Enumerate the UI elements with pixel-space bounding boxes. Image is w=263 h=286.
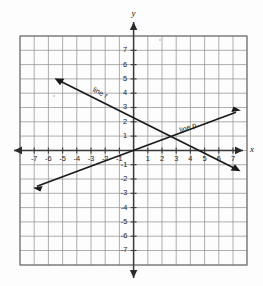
- y-tick-label: 7: [123, 45, 127, 54]
- y-tick-label: 2: [123, 117, 127, 126]
- y-tick-label: 1: [123, 131, 127, 140]
- x-tick-label: 5: [203, 154, 207, 163]
- y-axis-arrow-up: [130, 22, 137, 30]
- x-axis-label: x: [249, 144, 254, 154]
- y-tick-label: 3: [123, 102, 127, 111]
- coordinate-plane-svg: x y -7 -6 -5 -4 -3 -2 -1: [0, 0, 263, 286]
- x-tick-label: -6: [45, 154, 52, 163]
- x-tick-label: 3: [174, 154, 178, 163]
- x-tick-label: -7: [31, 154, 38, 163]
- y-axis-label: y: [131, 8, 136, 18]
- y-tick-label: -1: [121, 160, 128, 169]
- graph-figure: x y -7 -6 -5 -4 -3 -2 -1: [0, 0, 263, 286]
- scan-speck: [53, 95, 55, 97]
- y-tick-label: -6: [121, 231, 128, 240]
- y-tick-label: 6: [123, 60, 127, 69]
- x-tick-label: 4: [188, 154, 192, 163]
- y-tick-label: -3: [121, 188, 128, 197]
- x-tick-label: -4: [74, 154, 81, 163]
- x-axis-arrow-left: [14, 147, 22, 155]
- y-tick-label: 4: [123, 88, 127, 97]
- x-tick-label: 1: [146, 154, 150, 163]
- x-tick-label: -5: [59, 154, 66, 163]
- y-tick-label: -2: [121, 174, 128, 183]
- scan-speck: [159, 39, 161, 41]
- y-tick-label: 5: [123, 74, 127, 83]
- x-tick-label: -3: [88, 154, 95, 163]
- y-tick-label: -7: [121, 245, 128, 254]
- x-tick-label: 7: [231, 154, 235, 163]
- y-tick-label: -4: [121, 203, 128, 212]
- y-axis-arrow-down: [130, 270, 137, 278]
- y-tick-label: -5: [121, 217, 128, 226]
- x-tick-label: 2: [160, 154, 164, 163]
